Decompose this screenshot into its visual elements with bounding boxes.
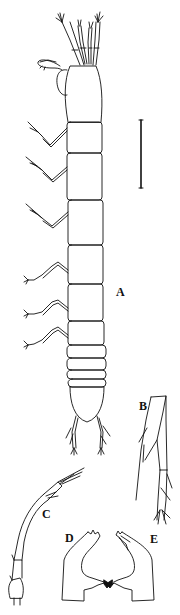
panel-label-b: B: [139, 400, 147, 412]
pereonite-5: [68, 284, 103, 321]
panel-label-d: D: [65, 532, 74, 544]
panel-label-c: C: [42, 508, 51, 520]
figure-drawing: [0, 0, 180, 615]
panel-b-drawing: [136, 396, 172, 524]
pereonite-4: [68, 245, 103, 284]
pleonite-4: [68, 379, 106, 387]
pleonite-3: [67, 370, 106, 379]
pleonite-1: [67, 345, 106, 358]
pleonite-2: [67, 358, 106, 370]
panel-label-e: E: [150, 533, 158, 545]
pereonite-1: [67, 122, 102, 153]
habitus-drawing: [24, 12, 110, 455]
cheliped: [38, 60, 67, 95]
pereonite-3: [68, 200, 103, 245]
panel-label-a: A: [116, 286, 125, 298]
antennae: [56, 12, 103, 65]
pereopods: [24, 122, 68, 349]
pleotelson: [70, 387, 104, 422]
scale-bar: [139, 120, 143, 188]
pereonite-6: [68, 321, 104, 345]
taxonomic-figure-plate: A B C D E: [0, 0, 180, 615]
cephalothorax: [65, 66, 102, 122]
pereonite-2: [67, 153, 102, 200]
panel-e-drawing: [106, 531, 154, 601]
